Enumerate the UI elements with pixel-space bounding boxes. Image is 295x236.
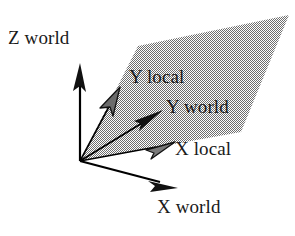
x-world-arrowhead [148, 181, 178, 192]
x-world-label: X world [157, 197, 221, 217]
z-world-axis [73, 63, 86, 161]
x-local-label: X local [175, 139, 231, 159]
x-world-axis [80, 161, 178, 192]
z-world-label: Z world [8, 28, 69, 48]
coordinate-axes-figure: Z world Y local Y world X local X world [0, 0, 295, 236]
y-world-label: Y world [166, 97, 229, 117]
y-local-label: Y local [129, 67, 184, 87]
